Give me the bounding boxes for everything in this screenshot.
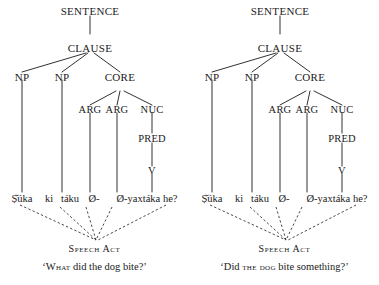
node-nuc: NUC: [331, 105, 354, 116]
speech-act-label-left: Speech Act: [0, 244, 189, 254]
gloss-pre-right: Did: [224, 261, 242, 272]
node-np-1: NP: [15, 72, 30, 83]
node-sentence: SENTENCE: [251, 6, 310, 17]
node-arg-1: ARG: [79, 105, 102, 116]
gloss-left: ‘What did the dog bite?’: [0, 262, 189, 273]
gloss-smallcaps-left: What: [46, 261, 71, 272]
node-arg-1: ARG: [269, 105, 292, 116]
node-sentence: SENTENCE: [61, 6, 120, 17]
speech-act-label-right: Speech Act: [190, 244, 379, 254]
gloss-close-quote-right: ’: [345, 261, 349, 272]
terminal-taku: táku: [251, 194, 269, 205]
terminal-taku: táku: [61, 194, 79, 205]
node-v: V: [338, 166, 346, 177]
gloss-rest-right: bite something?: [276, 261, 345, 272]
terminal-yaxtaka-he: Ø-yaxtáka he?: [307, 194, 368, 205]
node-arg-2: ARG: [106, 105, 129, 116]
node-np-2: NP: [55, 72, 70, 83]
gloss-close-quote-left: ’: [143, 261, 147, 272]
gloss-right: ‘Did the dog bite something?’: [190, 262, 379, 273]
terminal-suka: Ṣ̌úka: [12, 194, 33, 205]
figure-canvas: SENTENCE CLAUSE NP NP CORE ARG ARG NUC P…: [0, 0, 379, 285]
node-pred: PRED: [328, 134, 356, 145]
node-pred: PRED: [138, 134, 166, 145]
terminal-zero-prefix: Ø-: [88, 194, 99, 205]
node-core: CORE: [295, 72, 326, 83]
terminal-ki: ki: [235, 194, 243, 205]
gloss-smallcaps-right: the dog: [242, 261, 276, 272]
terminal-ki: ki: [45, 194, 53, 205]
node-v: V: [148, 166, 156, 177]
node-clause: CLAUSE: [68, 43, 113, 54]
syntax-tree-diagram-right: SENTENCE CLAUSE NP NP CORE ARG ARG NUC P…: [190, 0, 379, 285]
gloss-rest-left: did the dog bite?: [70, 261, 143, 272]
node-clause: CLAUSE: [258, 43, 303, 54]
node-np-2: NP: [245, 72, 260, 83]
node-arg-2: ARG: [296, 105, 319, 116]
terminal-zero-prefix: Ø-: [278, 194, 289, 205]
node-np-1: NP: [205, 72, 220, 83]
syntax-tree-diagram-left: SENTENCE CLAUSE NP NP CORE ARG ARG NUC P…: [0, 0, 189, 285]
terminal-suka: Ṣ̌úka: [202, 194, 223, 205]
node-nuc: NUC: [141, 105, 164, 116]
terminal-yaxtaka-he: Ø-yaxtáka he?: [117, 194, 178, 205]
node-core: CORE: [105, 72, 136, 83]
